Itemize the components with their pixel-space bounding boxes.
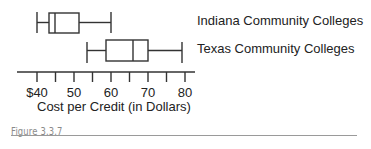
tick-label-60: 60 (104, 86, 118, 99)
tick-label-70: 70 (141, 86, 155, 99)
indiana-boxplot (37, 12, 111, 33)
series-label-indiana: Indiana Community Colleges (197, 14, 363, 27)
texas-boxplot (87, 40, 182, 63)
indiana-box (49, 13, 79, 33)
tick-label-50: 50 (67, 86, 81, 99)
x-axis-label: Cost per Credit (in Dollars) (37, 100, 191, 113)
tick-label-80: 80 (178, 86, 192, 99)
series-label-texas: Texas Community Colleges (197, 42, 355, 55)
texas-box (106, 40, 148, 61)
caption-divider (11, 135, 357, 136)
x-axis (17, 72, 195, 82)
tick-label-40: $40 (26, 86, 48, 99)
